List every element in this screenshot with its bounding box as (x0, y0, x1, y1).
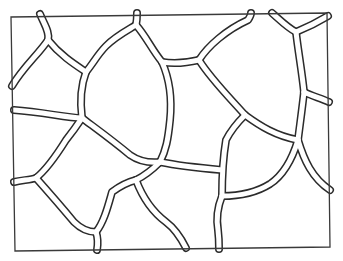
channel-interior (199, 60, 245, 115)
channel-interior (272, 13, 296, 32)
channel-interior (199, 13, 251, 60)
channel-interior (136, 25, 162, 62)
channel-interior (217, 196, 222, 249)
channel-interior (222, 140, 298, 196)
cell-network-diagram (0, 0, 343, 261)
channel-interior (40, 14, 48, 40)
channel-interior (12, 40, 48, 86)
channel-interior (36, 118, 82, 178)
channel-interior (96, 232, 98, 250)
channel-interior (162, 60, 199, 63)
channel-interior (298, 92, 304, 140)
channel-interior (48, 40, 86, 72)
channel-interior (96, 180, 136, 232)
channel-interior (82, 118, 160, 162)
channel-interior (86, 25, 136, 72)
channel-interior (296, 16, 328, 32)
channel-interior (36, 178, 96, 232)
